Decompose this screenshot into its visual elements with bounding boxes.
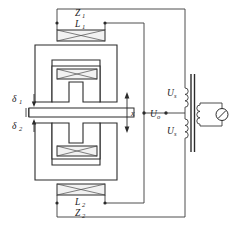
coil-bottom-outer-leads — [57, 195, 105, 203]
label-inductance-bottom: L — [74, 197, 80, 207]
node-bridge-center — [142, 111, 145, 114]
label-gap-top: δ — [12, 94, 17, 104]
circuit-diagram: Z 1 L 1 L 2 Z 2 δ 1 δ 2 x U o U s U s — [0, 0, 235, 226]
coil-top-outer-leads — [57, 23, 105, 30]
label-displacement: x — [130, 109, 135, 118]
gap-bottom-arrow-head — [32, 119, 36, 125]
label-supply-bottom-sub: s — [174, 130, 177, 137]
displacement-arrow-head-up — [125, 92, 130, 99]
transformer-primary-upper — [185, 86, 188, 113]
coil-bottom-inner — [57, 146, 97, 156]
node-bottom-right — [103, 201, 106, 204]
transformer — [166, 74, 200, 152]
label-impedance-top-sub: 1 — [82, 12, 85, 19]
label-impedance-bottom: Z — [75, 208, 81, 218]
label-gap-bottom: δ — [12, 121, 17, 131]
label-gap-top-sub: 1 — [19, 98, 22, 105]
gap-top-arrow-head — [32, 102, 36, 108]
armature-body — [29, 108, 134, 117]
coil-top-outer — [55, 21, 106, 41]
armature-plate — [26, 108, 134, 117]
label-impedance-top: Z — [75, 8, 81, 18]
transformer-primary-lower — [185, 113, 188, 140]
coil-bottom-outer — [55, 184, 106, 205]
label-supply-top-sub: s — [174, 92, 177, 99]
node-top-right — [103, 21, 106, 24]
label-inductance-top: L — [74, 19, 80, 29]
meter-circuit — [200, 103, 228, 126]
label-impedance-bottom-sub: 2 — [82, 212, 86, 219]
coil-top-inner — [57, 69, 97, 79]
armature-left-hatch — [26, 108, 29, 117]
transformer-secondary — [197, 103, 200, 126]
displacement-arrow-head-down — [125, 127, 130, 134]
label-gap-bottom-sub: 2 — [19, 125, 23, 132]
node-bottom-left — [55, 201, 58, 204]
label-inductance-bottom-sub: 2 — [82, 201, 86, 208]
node-top-left — [55, 21, 58, 24]
label-output-voltage-sub: o — [157, 113, 161, 120]
label-inductance-top-sub: 1 — [82, 23, 85, 30]
schematic-canvas: Z 1 L 1 L 2 Z 2 δ 1 δ 2 x U o U s U s — [0, 0, 235, 226]
